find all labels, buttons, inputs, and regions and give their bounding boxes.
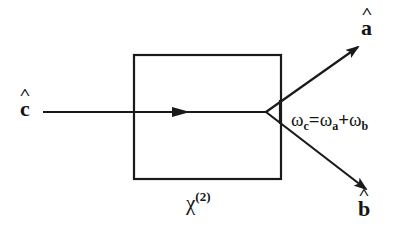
output-mode-a-label: a (361, 17, 372, 39)
output-mode-b-label: b (358, 198, 370, 220)
input-beam-arrowhead (172, 107, 190, 117)
omega-a: ω (320, 109, 333, 130)
mode-c-symbol: c (20, 98, 30, 120)
chi-order: (2) (195, 189, 210, 204)
medium-label: χ(2) (186, 190, 211, 214)
frequency-relation: ωc=ωa+ωb (291, 110, 368, 132)
omega-b: ω (349, 109, 362, 130)
omega-b-sub: b (362, 119, 369, 133)
omega-c: ω (291, 109, 304, 130)
mode-b-symbol: b (358, 198, 370, 220)
plus-sign: + (338, 109, 349, 130)
chi-symbol: χ (186, 191, 195, 215)
input-mode-label: c (20, 98, 30, 120)
equals-sign: = (309, 109, 320, 130)
mode-a-symbol: a (361, 17, 372, 39)
chi2-crystal-box (134, 55, 281, 179)
